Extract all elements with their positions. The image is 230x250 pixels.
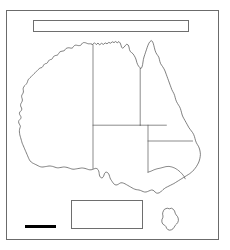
mainland-coastline [19,41,201,194]
tasmania-coastline [162,208,179,230]
scale-bar-group [25,222,71,234]
map-figure [0,0,230,250]
scale-bar [25,225,56,228]
map-title-box[interactable] [33,20,189,32]
map-legend-box[interactable] [71,200,143,229]
